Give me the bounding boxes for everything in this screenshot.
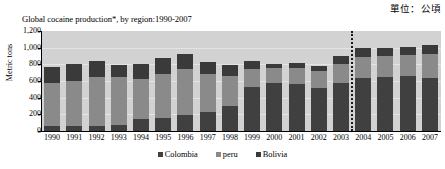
bar-segment-peru[interactable] <box>333 64 349 82</box>
y-axis: Metric tons 02004006008001,0001,200 <box>0 0 41 169</box>
bar-segment-peru[interactable] <box>200 74 216 112</box>
bar-segment-colombia[interactable] <box>244 87 260 131</box>
bar-segment-colombia[interactable] <box>155 118 171 131</box>
bar-segment-bolivia[interactable] <box>177 54 193 69</box>
bar-segment-peru[interactable] <box>133 79 149 119</box>
legend-item[interactable]: Bolivia <box>256 150 288 159</box>
bar-segment-colombia[interactable] <box>200 112 216 131</box>
bar-segment-bolivia[interactable] <box>155 58 171 74</box>
bar-segment-bolivia[interactable] <box>44 67 60 83</box>
bar-segment-bolivia[interactable] <box>89 61 105 77</box>
bar-segment-bolivia[interactable] <box>333 56 349 64</box>
bar-segment-colombia[interactable] <box>311 88 327 131</box>
bar-segment-colombia[interactable] <box>222 106 238 131</box>
legend-label: peru <box>223 150 238 159</box>
y-tick-label: 800 <box>3 60 41 68</box>
bar-segment-peru[interactable] <box>89 77 105 125</box>
y-tick-label: 1,000 <box>3 44 41 52</box>
bar-segment-bolivia[interactable] <box>266 64 282 68</box>
bar-segment-peru[interactable] <box>111 77 127 125</box>
bar-segment-bolivia[interactable] <box>200 62 216 74</box>
bar-segment-peru[interactable] <box>355 57 371 78</box>
bar-segment-peru[interactable] <box>244 69 260 87</box>
legend-item[interactable]: Colombia <box>158 150 198 159</box>
bar-segment-colombia[interactable] <box>266 83 282 131</box>
legend-label: Colombia <box>165 150 198 159</box>
bar-segment-peru[interactable] <box>177 69 193 115</box>
x-tick-label: 2007 <box>410 133 445 142</box>
bar-segment-colombia[interactable] <box>133 119 149 131</box>
legend-item[interactable]: peru <box>216 150 238 159</box>
bar-segment-bolivia[interactable] <box>289 63 305 68</box>
bar-segment-bolivia[interactable] <box>244 61 260 69</box>
bar-segment-colombia[interactable] <box>422 78 438 131</box>
bar-segment-peru[interactable] <box>422 54 438 78</box>
bar-segment-peru[interactable] <box>400 55 416 76</box>
x-axis-line <box>41 131 441 132</box>
bar-segment-peru[interactable] <box>222 76 238 106</box>
methodology-break-line <box>351 31 353 131</box>
chart-title: Global cocaine production*, by region:19… <box>22 14 192 24</box>
legend-swatch-icon <box>256 152 261 157</box>
bar-segment-colombia[interactable] <box>400 76 416 131</box>
bar-segment-bolivia[interactable] <box>133 64 149 79</box>
bar-segment-bolivia[interactable] <box>311 66 327 71</box>
chart-container: 單位：公頃 Global cocaine production*, by reg… <box>0 0 445 169</box>
bar-segment-colombia[interactable] <box>333 83 349 131</box>
bar-segment-peru[interactable] <box>44 83 60 126</box>
chart-legend: ColombiaperuBolivia <box>0 150 445 159</box>
bar-segment-bolivia[interactable] <box>400 47 416 55</box>
y-tick-label: 1,200 <box>3 27 41 35</box>
bar-segment-peru[interactable] <box>311 71 327 88</box>
bar-segment-peru[interactable] <box>377 56 393 77</box>
legend-label: Bolivia <box>263 150 288 159</box>
unit-note: 單位：公頃 <box>390 1 441 15</box>
bar-segment-bolivia[interactable] <box>355 48 371 57</box>
bar-segment-bolivia[interactable] <box>222 65 238 76</box>
bar-segment-colombia[interactable] <box>355 78 371 131</box>
y-tick-label: 200 <box>3 110 41 118</box>
bar-segment-colombia[interactable] <box>177 115 193 131</box>
legend-swatch-icon <box>158 152 163 157</box>
bar-segment-bolivia[interactable] <box>422 45 438 53</box>
bar-segment-bolivia[interactable] <box>377 48 393 56</box>
y-tick-label: 400 <box>3 94 41 102</box>
bar-segment-colombia[interactable] <box>289 84 305 132</box>
bar-segment-peru[interactable] <box>66 81 82 126</box>
bar-segment-colombia[interactable] <box>377 77 393 131</box>
plot-area <box>41 31 441 131</box>
y-axis-line <box>41 31 42 131</box>
legend-swatch-icon <box>216 152 221 157</box>
y-tick-label: 600 <box>3 77 41 85</box>
bar-segment-peru[interactable] <box>266 68 282 83</box>
bar-segment-bolivia[interactable] <box>111 65 127 77</box>
bar-segment-bolivia[interactable] <box>66 64 82 81</box>
bar-segment-peru[interactable] <box>155 74 171 118</box>
bar-segment-peru[interactable] <box>289 68 305 84</box>
